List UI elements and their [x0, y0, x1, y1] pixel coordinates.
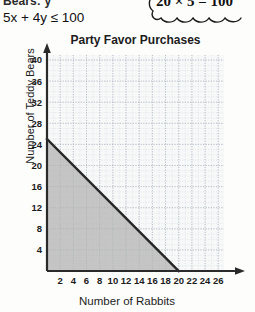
x-tick-labels: 2 4 6 8 10 12 14 16 18 20 22 24 26	[58, 275, 224, 286]
y-tick-8: 8	[37, 223, 42, 234]
y-axis-title: Number of Teddy Bears	[24, 16, 36, 196]
x-tick-26: 26	[213, 275, 224, 286]
x-axis-arrow	[235, 267, 245, 275]
x-tick-6: 6	[84, 275, 89, 286]
chart-svg: 4 8 12 16 20 24 28 32 36 40 2 4 6 8 10 1…	[0, 0, 255, 312]
inequality-graph: 4 8 12 16 20 24 28 32 36 40 2 4 6 8 10 1…	[0, 0, 255, 312]
x-tick-24: 24	[200, 275, 211, 286]
x-tick-16: 16	[147, 275, 158, 286]
y-tick-4: 4	[37, 244, 43, 255]
x-tick-8: 8	[97, 275, 102, 286]
x-tick-4: 4	[71, 275, 77, 286]
x-tick-10: 10	[108, 275, 119, 286]
x-tick-22: 22	[187, 275, 198, 286]
x-tick-20: 20	[173, 275, 184, 286]
y-tick-12: 12	[31, 202, 42, 213]
x-tick-2: 2	[58, 275, 63, 286]
y-axis-arrow	[43, 43, 51, 53]
x-tick-14: 14	[134, 275, 145, 286]
x-tick-18: 18	[160, 275, 171, 286]
x-tick-12: 12	[121, 275, 132, 286]
x-axis-title: Number of Rabbits	[22, 295, 232, 307]
